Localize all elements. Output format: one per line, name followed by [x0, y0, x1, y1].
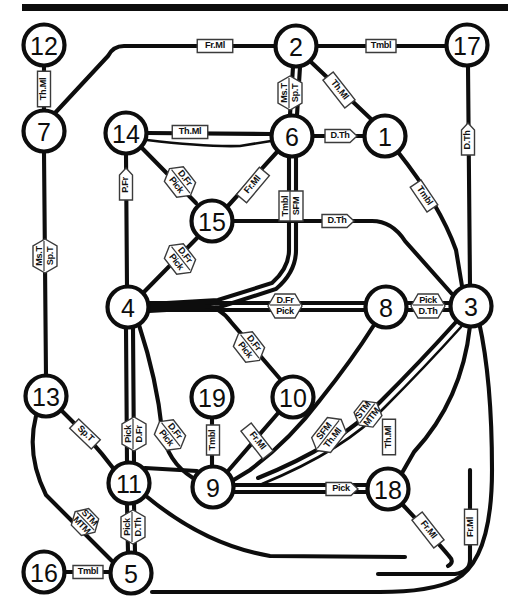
edge-label: Fr.Ml — [465, 509, 478, 545]
edge-3-18 — [402, 326, 470, 473]
edge-label: D.FrPick — [160, 238, 200, 280]
edge-label: Ms.TSp.T — [278, 76, 302, 110]
graph-node-2[interactable]: 2 — [276, 26, 317, 67]
graph-node-6[interactable]: 6 — [272, 116, 313, 157]
edge-label-text: Pick — [123, 424, 133, 443]
edge-label: Th.Ml — [323, 72, 355, 108]
graph-node-14[interactable]: 14 — [106, 113, 147, 154]
graph-node-18[interactable]: 18 — [368, 469, 409, 510]
edge-label-text: Sp.T — [45, 246, 55, 265]
edge-label: Fr.Ml — [197, 40, 233, 53]
node-label: 17 — [453, 32, 481, 60]
edge-label: Fr.Ml — [237, 167, 270, 203]
edge-label: D.Th — [322, 215, 354, 228]
node-label: 8 — [379, 294, 393, 322]
edge-label: D.Th — [462, 123, 475, 155]
graph-node-11[interactable]: 11 — [109, 463, 150, 504]
edge-label-text: Fr.Ml — [465, 517, 475, 537]
edge-label-text: D.Th — [462, 130, 472, 150]
node-label: 2 — [289, 33, 303, 61]
edge-label-text: D.Th — [133, 517, 143, 537]
edge-label-text: Sp.T — [290, 83, 300, 102]
edge-label-text: Pick — [122, 517, 132, 536]
edge-label: Th.Ml — [383, 419, 396, 455]
edge-label-text: D.Th — [327, 215, 347, 225]
graph-node-13[interactable]: 13 — [26, 376, 67, 417]
edge-4-9-curve — [139, 325, 193, 478]
edge-label: TmblSFM — [279, 191, 303, 221]
edge-label-text: Tmbl — [207, 430, 217, 451]
edge-label: D.FrPick — [150, 414, 190, 456]
edge-label: PickD.Th — [121, 510, 145, 544]
edge-label-text: Th.Ml — [383, 426, 393, 448]
graph-node-12[interactable]: 12 — [24, 25, 65, 66]
graph-svg: Th.MlFr.MlTmblMs.TSp.TTh.MlTh.MlD.ThD.Th… — [0, 0, 510, 616]
graph-node-16[interactable]: 16 — [24, 552, 65, 593]
graph-node-8[interactable]: 8 — [366, 287, 407, 328]
edge-label: Tmbl — [410, 180, 438, 212]
graph-node-5[interactable]: 5 — [111, 553, 152, 594]
node-label: 10 — [279, 384, 307, 412]
graph-node-9[interactable]: 9 — [193, 467, 234, 508]
graph-node-3[interactable]: 3 — [451, 286, 492, 327]
edge-17-3 — [468, 66, 470, 286]
graph-node-17[interactable]: 17 — [447, 25, 488, 66]
edge-label-text: Th.Ml — [38, 78, 48, 100]
edge-1-3 — [398, 152, 462, 286]
edge-label: Tmbl — [207, 425, 220, 455]
edge-label: Th.Ml — [38, 71, 51, 107]
graph-node-7[interactable]: 7 — [24, 111, 65, 152]
edge-label-text: D.Fr — [276, 295, 294, 305]
node-label: 5 — [124, 560, 138, 588]
edge-label: D.FrPick — [160, 161, 200, 203]
node-label: 9 — [206, 474, 220, 502]
edge-label: D.Th — [325, 130, 357, 143]
edge-label-text: Fr.Ml — [205, 40, 225, 50]
node-label: 11 — [116, 470, 142, 498]
edge-13-5 — [33, 416, 112, 561]
edge-label: Tmbl — [73, 566, 103, 579]
node-label: 6 — [285, 123, 299, 151]
edge-label: STMMTM — [66, 503, 103, 540]
edge-label-text: D.Th — [418, 306, 438, 316]
edge-7-2 — [55, 46, 275, 113]
graph-node-19[interactable]: 19 — [192, 377, 233, 418]
edge-label-text: Pick — [276, 306, 295, 316]
edge-label-text: Tmbl — [280, 196, 290, 217]
edge-label-text: Tmbl — [371, 40, 392, 50]
edge-label-text: Tmbl — [78, 566, 99, 576]
edge-14-6 — [147, 133, 271, 134]
edge-label-text: SFM — [291, 196, 301, 215]
edge-layer — [33, 46, 492, 592]
edge-label: PickD.Fr — [122, 417, 146, 451]
edge-11-9 — [145, 468, 197, 471]
graph-node-15[interactable]: 15 — [192, 201, 233, 242]
node-label: 15 — [198, 208, 226, 236]
edge-label-text: P.Fr — [120, 177, 130, 193]
graph-node-10[interactable]: 10 — [273, 377, 314, 418]
edge-label-text: D.Th — [330, 130, 350, 140]
node-label: 13 — [32, 383, 60, 411]
edge-label-text: Ms.T — [279, 82, 289, 102]
edge-label: D.FrPick — [268, 294, 302, 318]
edge-label: Sp.T — [70, 419, 101, 449]
edge-label: P.Fr — [120, 168, 133, 200]
edge-label-text: Ms.T — [34, 245, 44, 265]
edge-label-text: Pick — [332, 483, 351, 493]
edge-label: Fr.Ml — [412, 512, 444, 548]
edge-label: Th.Ml — [172, 126, 208, 139]
node-label: 12 — [30, 32, 58, 60]
edge-label: Fr.Ml — [241, 423, 273, 459]
graph-node-1[interactable]: 1 — [365, 116, 406, 157]
graph-node-4[interactable]: 4 — [108, 287, 149, 328]
node-label: 19 — [198, 384, 226, 412]
edge-11-right-curve — [146, 496, 405, 557]
edge-label-text: Pick — [419, 295, 438, 305]
node-label: 1 — [378, 123, 392, 151]
edge-label-text: D.Fr — [134, 425, 144, 443]
diagram-canvas: Th.MlFr.MlTmblMs.TSp.TTh.MlTh.MlD.ThD.Th… — [0, 0, 510, 616]
node-label: 3 — [464, 293, 478, 321]
node-label: 14 — [112, 120, 140, 148]
edge-label: Pick — [326, 483, 358, 496]
node-label: 18 — [374, 476, 402, 504]
